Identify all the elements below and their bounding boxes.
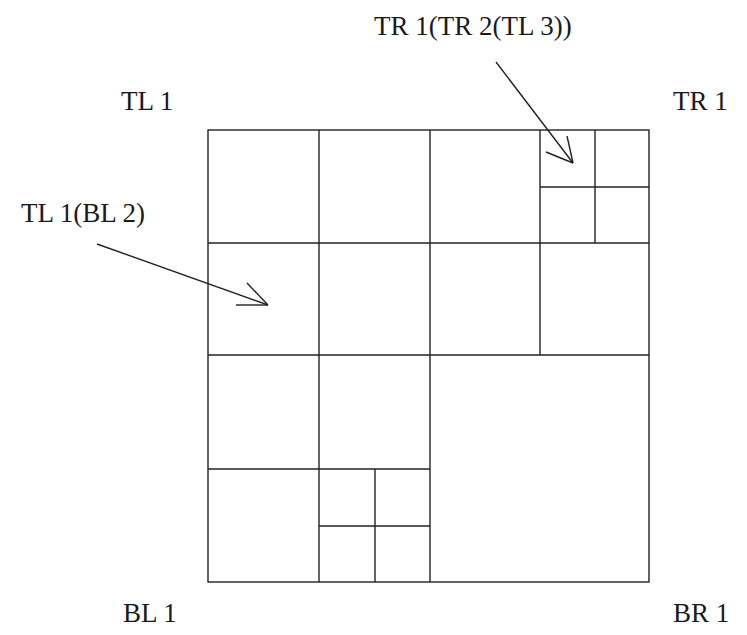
annotation-tl1-bl2: TL 1(BL 2) bbox=[21, 200, 145, 227]
arrow-tr1-tr2-tl3 bbox=[496, 62, 573, 163]
corner-label-top-left: TL 1 bbox=[121, 88, 173, 115]
corner-label-top-right: TR 1 bbox=[673, 88, 728, 115]
quadtree-root bbox=[208, 130, 649, 582]
quadtree-diagram bbox=[0, 0, 747, 635]
annotation-tr1-tr2-tl3: TR 1(TR 2(TL 3)) bbox=[374, 13, 572, 40]
arrow-tl1-bl2 bbox=[97, 244, 268, 305]
corner-label-bottom-right: BR 1 bbox=[673, 600, 729, 627]
corner-label-bottom-left: BL 1 bbox=[123, 600, 177, 627]
